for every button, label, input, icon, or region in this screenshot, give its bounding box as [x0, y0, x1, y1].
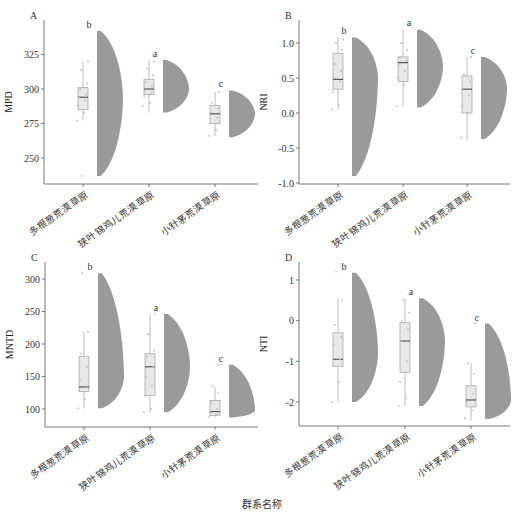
data-point: [398, 63, 400, 65]
data-point: [465, 401, 467, 403]
data-point: [76, 120, 78, 122]
panel-label: C: [31, 252, 38, 263]
significance-letter: b: [342, 25, 347, 36]
data-point: [84, 99, 86, 101]
data-point: [145, 376, 147, 378]
data-point: [339, 358, 341, 360]
data-point: [211, 102, 213, 104]
half-violin: [419, 298, 445, 406]
data-point: [471, 409, 473, 411]
data-point: [79, 379, 81, 381]
data-point: [334, 324, 336, 326]
data-point: [80, 69, 82, 71]
half-violin: [229, 90, 255, 137]
data-point: [152, 74, 154, 76]
data-point: [150, 92, 152, 94]
x-tick-label: 多根葱荒漠草原: [281, 431, 345, 480]
data-point: [464, 417, 466, 419]
y-tick-label: -1: [286, 356, 294, 367]
data-point: [81, 272, 83, 274]
panel-c: CMNTD100150200250300多根葱荒漠草原b狭叶锦鸡儿荒漠草原a小针…: [4, 252, 258, 492]
data-point: [208, 135, 210, 137]
y-tick-label: 275: [24, 118, 39, 129]
y-axis-label: NTI: [258, 336, 269, 353]
x-tick-label: 多根葱荒漠草原: [27, 432, 91, 481]
y-axis-label: MPD: [3, 91, 14, 113]
significance-letter: a: [153, 48, 158, 59]
data-point: [77, 407, 79, 409]
data-point: [339, 81, 341, 83]
box: [145, 354, 155, 396]
data-point: [216, 117, 218, 119]
data-point: [87, 61, 89, 63]
data-point: [85, 385, 87, 387]
panel-label: B: [285, 10, 292, 21]
significance-letter: b: [342, 261, 347, 272]
x-tick-label: 多根葱荒漠草原: [281, 189, 345, 238]
significance-letter: c: [475, 312, 480, 323]
group-1: 多根葱荒漠草原b: [27, 261, 124, 481]
data-point: [460, 137, 462, 139]
data-point: [400, 42, 402, 44]
data-point: [211, 385, 213, 387]
panel-a: AMPD250275300325多根葱荒漠草原b狭叶锦鸡儿荒漠草原a小针茅荒漠草…: [3, 10, 258, 249]
data-point: [210, 112, 212, 114]
data-point: [406, 360, 408, 362]
data-point: [87, 331, 89, 333]
data-point: [472, 393, 474, 395]
raincloud-figure: 群系名称 AMPD250275300325多根葱荒漠草原b狭叶锦鸡儿荒漠草原a小…: [0, 0, 523, 519]
y-tick-label: -0.5: [278, 143, 294, 154]
data-point: [85, 94, 87, 96]
group-2: 狭叶锦鸡儿荒漠草原a: [330, 17, 443, 249]
data-point: [218, 364, 220, 366]
data-point: [407, 328, 409, 330]
x-tick-label: 多根葱荒漠草原: [26, 189, 90, 238]
data-point: [399, 56, 401, 58]
data-point: [341, 299, 343, 301]
half-violin: [164, 314, 190, 412]
significance-letter: c: [471, 45, 476, 56]
data-point: [81, 175, 83, 177]
data-point: [406, 49, 408, 51]
data-point: [146, 67, 148, 69]
data-point: [149, 102, 151, 104]
data-point: [405, 397, 407, 399]
box: [333, 333, 343, 366]
y-tick-label: 100: [25, 404, 40, 415]
data-point: [144, 89, 146, 91]
y-tick-label: 0.5: [282, 73, 295, 84]
data-point: [333, 77, 335, 79]
data-point: [217, 392, 219, 394]
y-tick-label: 250: [25, 306, 40, 317]
data-point: [467, 112, 469, 114]
data-point: [462, 88, 464, 90]
y-tick-label: 1.0: [282, 38, 295, 49]
y-tick-label: 200: [25, 339, 40, 350]
y-tick-label: 250: [24, 153, 39, 164]
significance-letter: a: [407, 17, 412, 28]
data-point: [338, 381, 340, 383]
data-point: [217, 107, 219, 109]
data-point: [463, 74, 465, 76]
data-point: [143, 95, 145, 97]
data-point: [474, 323, 476, 325]
data-point: [145, 81, 147, 83]
data-point: [147, 333, 149, 335]
data-point: [331, 109, 333, 111]
data-point: [466, 385, 468, 387]
panel-label: A: [30, 10, 38, 21]
half-violin: [97, 31, 123, 176]
x-tick-label: 小针茅荒漠草原: [414, 431, 478, 480]
data-point: [218, 91, 220, 93]
y-tick-label: 0.0: [282, 108, 295, 119]
half-violin: [352, 273, 378, 402]
data-point: [77, 105, 79, 107]
data-point: [78, 390, 80, 392]
data-point: [403, 84, 405, 86]
data-point: [215, 130, 217, 132]
data-point: [342, 39, 344, 41]
data-point: [468, 95, 470, 97]
half-violin: [352, 37, 378, 176]
data-point: [84, 398, 86, 400]
y-tick-label: 150: [25, 371, 40, 382]
